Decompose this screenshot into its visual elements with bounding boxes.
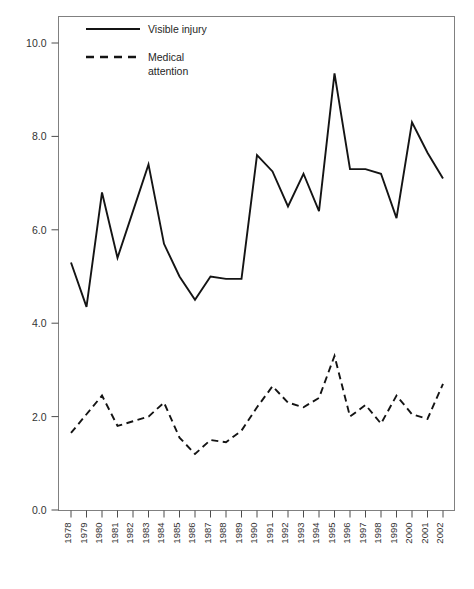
x-tick-label: 1983: [140, 523, 151, 544]
y-axis-ticks: [52, 43, 59, 510]
x-tick-label: 1988: [217, 523, 228, 544]
x-axis-tick-labels: 1978197919801981198219831984198519861987…: [62, 523, 445, 544]
x-tick-label: 1991: [264, 523, 275, 544]
x-tick-label: 1979: [78, 523, 89, 544]
x-tick-label: 1986: [186, 523, 197, 544]
x-tick-label: 1981: [109, 523, 120, 544]
x-tick-label: 1980: [93, 523, 104, 544]
y-axis-tick-labels: 0.02.04.06.08.010.0: [26, 37, 47, 516]
y-tick-label: 2.0: [32, 411, 47, 423]
data-series-group: [71, 73, 443, 454]
x-tick-label: 2001: [419, 523, 430, 544]
legend-label-line2: attention: [148, 65, 188, 77]
x-tick-label: 1990: [248, 523, 259, 544]
y-tick-label: 10.0: [26, 37, 47, 49]
y-tick-label: 6.0: [32, 224, 47, 236]
y-tick-label: 4.0: [32, 317, 47, 329]
line-chart: 0.02.04.06.08.010.0 19781979198019811982…: [0, 0, 474, 589]
y-tick-label: 0.0: [32, 504, 47, 516]
x-tick-label: 2000: [403, 523, 414, 544]
x-tick-label: 1984: [155, 523, 166, 544]
series-line-solid: [71, 73, 443, 306]
chart-legend: Visible injuryMedicalattention: [86, 23, 207, 77]
x-tick-label: 1995: [326, 523, 337, 544]
x-tick-label: 1996: [341, 523, 352, 544]
y-tick-label: 8.0: [32, 130, 47, 142]
x-tick-label: 1997: [357, 523, 368, 544]
x-tick-label: 1987: [202, 523, 213, 544]
x-tick-label: 1999: [388, 523, 399, 544]
plot-frame: [59, 17, 455, 511]
x-tick-label: 1998: [372, 523, 383, 544]
legend-label: Visible injury: [148, 23, 207, 35]
x-tick-label: 1985: [171, 523, 182, 544]
x-tick-label: 1978: [62, 523, 73, 544]
legend-label: Medical: [148, 51, 184, 63]
x-tick-label: 1994: [310, 523, 321, 544]
chart-figure: 0.02.04.06.08.010.0 19781979198019811982…: [0, 0, 474, 589]
x-tick-label: 1993: [295, 523, 306, 544]
x-tick-label: 2002: [434, 523, 445, 544]
x-tick-label: 1989: [233, 523, 244, 544]
series-line-dashed: [71, 356, 443, 454]
x-axis-ticks: [71, 511, 443, 518]
x-tick-label: 1982: [124, 523, 135, 544]
x-tick-label: 1992: [279, 523, 290, 544]
